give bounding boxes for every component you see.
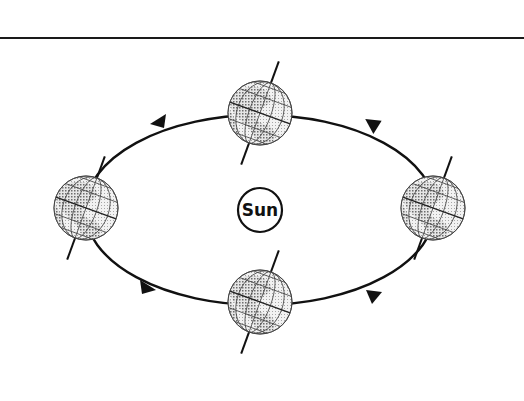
- arrow-icon-upper-right: [365, 117, 383, 135]
- earth-globe-bottom: [219, 250, 301, 353]
- orbit-diagram: Sun: [0, 0, 524, 401]
- earth-globe-right: [392, 156, 474, 259]
- sun: Sun: [238, 188, 282, 232]
- earth-globe-top: [219, 61, 301, 164]
- arrow-icon-lower-right: [366, 290, 382, 304]
- earth-globe-left: [45, 156, 127, 259]
- arrow-icon-upper-left: [150, 114, 166, 128]
- sun-label: Sun: [242, 200, 278, 220]
